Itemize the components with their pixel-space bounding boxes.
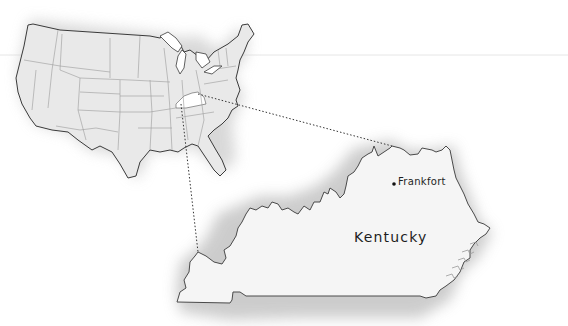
us-map — [16, 20, 254, 180]
state-label: Kentucky — [354, 229, 428, 245]
map-canvas: Frankfort Kentucky — [0, 0, 568, 326]
capital-label: Frankfort — [398, 176, 446, 187]
capital-marker-icon — [392, 182, 396, 186]
map-graphic — [0, 0, 568, 326]
